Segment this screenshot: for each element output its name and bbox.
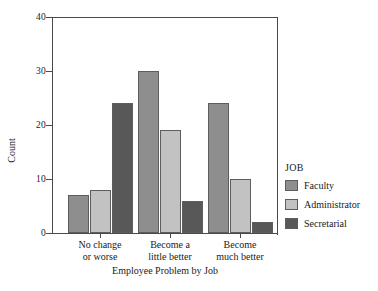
y-axis-tick <box>46 17 52 18</box>
x-axis-category-label: Becomemuch better <box>194 239 286 262</box>
legend-swatch-secretarial <box>285 218 298 229</box>
legend-title: JOB <box>285 162 360 173</box>
legend-item-administrator: Administrator <box>285 195 360 214</box>
x-axis-tick <box>100 233 101 238</box>
bar-secretarial-2 <box>252 222 273 233</box>
x-axis-category-line: Become <box>194 239 286 251</box>
bar-administrator-1 <box>160 130 181 233</box>
plot-frame-top <box>52 17 278 18</box>
legend-label: Faculty <box>304 180 334 191</box>
legend-swatch-administrator <box>285 199 298 210</box>
bar-faculty-2 <box>208 103 229 233</box>
legend-label: Administrator <box>304 199 360 210</box>
y-axis-tick <box>46 125 52 126</box>
x-axis-tick <box>170 233 171 238</box>
x-axis-category-line: much better <box>194 251 286 263</box>
legend-item-faculty: Faculty <box>285 176 360 195</box>
plot-frame-right <box>277 17 278 235</box>
y-axis-tick <box>46 233 52 234</box>
legend: JOB FacultyAdministratorSecretarial <box>285 162 360 233</box>
legend-rows: FacultyAdministratorSecretarial <box>285 176 360 233</box>
y-axis-tick <box>46 71 52 72</box>
legend-swatch-faculty <box>285 180 298 191</box>
legend-item-secretarial: Secretarial <box>285 214 360 233</box>
y-axis-tick-label: 30 <box>16 66 46 76</box>
y-axis-tick-label: 40 <box>16 12 46 22</box>
bar-secretarial-0 <box>112 103 133 233</box>
y-axis-tick-label: 10 <box>16 174 46 184</box>
x-axis-line <box>52 233 278 234</box>
chart-figure: Count 010203040 No changeor worseBecome … <box>0 0 378 291</box>
y-axis-title: Count <box>6 121 17 181</box>
legend-label: Secretarial <box>304 218 347 229</box>
bar-administrator-2 <box>230 179 251 233</box>
y-axis-tick-label: 0 <box>16 228 46 238</box>
x-axis-title: Employee Problem by Job <box>52 265 278 276</box>
bar-faculty-0 <box>68 195 89 233</box>
bar-secretarial-1 <box>182 201 203 233</box>
y-axis-tick-label: 20 <box>16 120 46 130</box>
x-axis-tick <box>240 233 241 238</box>
y-axis-tick <box>46 179 52 180</box>
plot-frame-left <box>52 17 53 233</box>
bar-administrator-0 <box>90 190 111 233</box>
bar-faculty-1 <box>138 71 159 233</box>
